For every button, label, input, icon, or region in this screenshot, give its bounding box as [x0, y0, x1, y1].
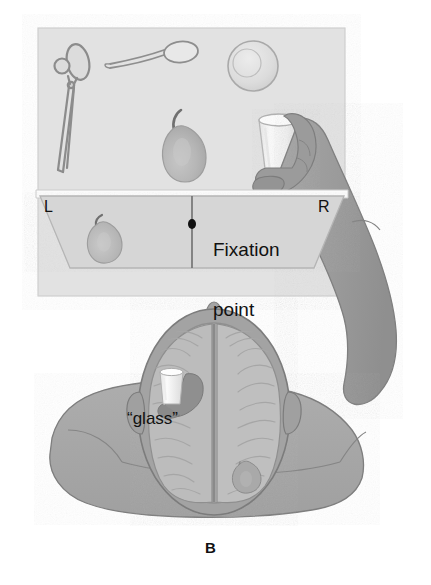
figure-canvas: L R Fixation point “glass” B: [0, 0, 431, 585]
screen-left-field-label: L: [44, 199, 53, 216]
panel-label: B: [205, 540, 216, 556]
fixation-point-label-line2: point: [213, 300, 280, 320]
fixation-point-label: Fixation point: [213, 200, 280, 360]
glass-word-label: “glass”: [127, 410, 178, 428]
fixation-point-label-line1: Fixation: [213, 240, 280, 260]
viewing-screen: [36, 190, 348, 268]
screen-right-field-label: R: [318, 199, 330, 216]
ball-icon: [228, 41, 278, 91]
